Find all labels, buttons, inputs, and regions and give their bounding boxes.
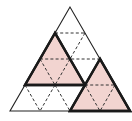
triangle-grid-figure xyxy=(0,0,132,121)
dashed-line xyxy=(70,33,85,59)
left-shaded-triangle xyxy=(25,33,85,85)
dashed-line xyxy=(25,85,40,111)
dashed-line xyxy=(40,85,55,111)
dashed-line xyxy=(55,85,70,111)
